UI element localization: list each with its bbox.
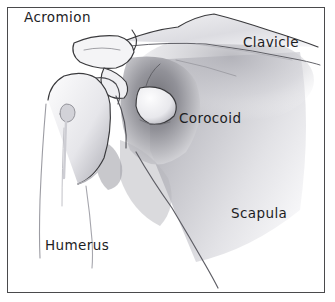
sketch-shading-layer [95, 34, 314, 262]
humerus-shaft-medial [86, 186, 93, 268]
label-acromion: Acromion [24, 11, 91, 25]
acromion-outline [73, 36, 134, 69]
anatomy-figure: Acromion Clavicle Corocoid Scapula Humer… [0, 0, 335, 302]
label-humerus: Humerus [45, 239, 109, 253]
label-scapula: Scapula [231, 207, 287, 221]
label-clavicle: Clavicle [243, 36, 299, 50]
humerus-head-marking [60, 104, 75, 122]
humerus-shaft-lateral [40, 104, 47, 258]
label-corocoid: Corocoid [179, 112, 241, 126]
